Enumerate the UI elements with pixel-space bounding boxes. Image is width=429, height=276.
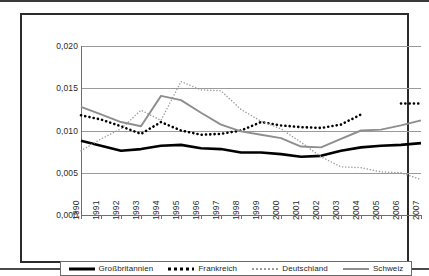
- y-tick-label: 0,020: [56, 41, 78, 51]
- x-tick: [121, 215, 122, 219]
- x-tick-label: 2005: [371, 200, 381, 220]
- x-tick: [421, 215, 422, 219]
- x-tick-label: 2006: [391, 200, 401, 220]
- legend-item[interactable]: Deutschland: [252, 264, 328, 273]
- y-axis-labels: 0,0000,0050,0100,0150,020: [42, 46, 78, 215]
- legend-swatch-icon: [252, 264, 278, 273]
- x-tick: [201, 215, 202, 219]
- plot-area: [81, 46, 421, 215]
- x-tick: [281, 215, 282, 219]
- x-tick-label: 1991: [91, 200, 101, 220]
- legend-label: Frankreich: [198, 264, 237, 273]
- x-tick-label: 1994: [151, 200, 161, 220]
- x-tick: [141, 215, 142, 219]
- x-tick: [181, 215, 182, 219]
- legend-swatch-icon: [168, 264, 194, 273]
- page-top-rule: [0, 0, 429, 2]
- y-tick-label: 0,015: [56, 83, 78, 93]
- series-line: [81, 141, 421, 157]
- x-tick-label: 1995: [171, 200, 181, 220]
- x-axis-labels: 1990199119921993199419951996199719981999…: [81, 220, 421, 262]
- legend-label: Schweiz: [373, 264, 404, 273]
- x-tick-label: 2007: [411, 200, 421, 220]
- x-tick-label: 2002: [311, 200, 321, 220]
- legend-swatch-icon: [343, 264, 369, 273]
- legend-label: Großbritannien: [99, 264, 154, 273]
- x-tick-label: 2004: [351, 200, 361, 220]
- x-tick: [261, 215, 262, 219]
- y-tick-label: 0,005: [56, 168, 78, 178]
- x-tick: [321, 215, 322, 219]
- x-tick: [381, 215, 382, 219]
- chart-legend: GroßbritannienFrankreichDeutschlandSchwe…: [60, 261, 412, 276]
- x-tick-label: 1999: [251, 200, 261, 220]
- chart-page: 0,0000,0050,0100,0150,020 19901991199219…: [0, 0, 429, 276]
- x-tick-label: 1997: [211, 200, 221, 220]
- series-line: [81, 96, 421, 148]
- x-tick-label: 1998: [231, 200, 241, 220]
- legend-item[interactable]: Frankreich: [168, 264, 237, 273]
- x-tick: [161, 215, 162, 219]
- x-tick: [101, 215, 102, 219]
- x-tick: [341, 215, 342, 219]
- x-tick: [241, 215, 242, 219]
- x-tick: [81, 215, 82, 219]
- y-tick-label: 0,010: [56, 126, 78, 136]
- x-tick-label: 1993: [131, 200, 141, 220]
- x-tick: [401, 215, 402, 219]
- legend-label: Deutschland: [282, 264, 328, 273]
- x-tick-label: 2003: [331, 200, 341, 220]
- legend-item[interactable]: Großbritannien: [69, 264, 154, 273]
- x-tick-label: 2000: [271, 200, 281, 220]
- x-tick-label: 1992: [111, 200, 121, 220]
- x-tick: [301, 215, 302, 219]
- x-tick-label: 1996: [191, 200, 201, 220]
- x-tick-label: 1990: [71, 200, 81, 220]
- chart-frame: 0,0000,0050,0100,0150,020 19901991199219…: [20, 13, 409, 263]
- x-tick-label: 2001: [291, 200, 301, 220]
- legend-swatch-icon: [69, 264, 95, 273]
- x-tick: [221, 215, 222, 219]
- legend-item[interactable]: Schweiz: [343, 264, 404, 273]
- series-lines: [81, 46, 421, 215]
- x-tick: [361, 215, 362, 219]
